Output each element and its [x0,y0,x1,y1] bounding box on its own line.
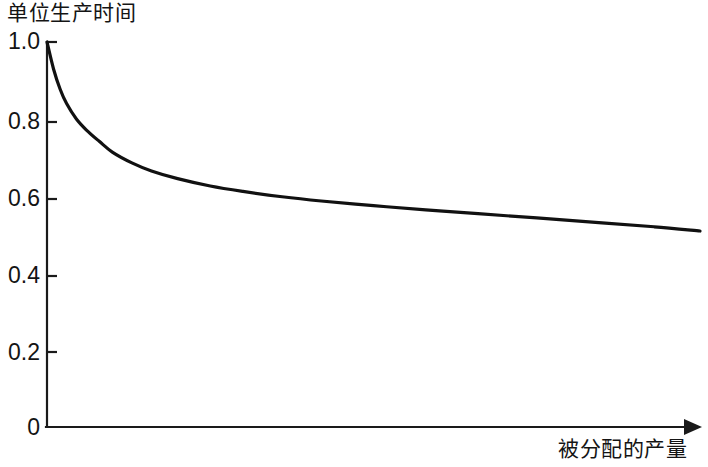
plot-area [0,0,708,467]
data-curve-series-0 [47,42,700,231]
chart-container: 单位生产时间 被分配的产量 1.0 0.8 0.6 0.4 0.2 0 [0,0,708,467]
x-axis-arrow-icon [684,419,702,435]
y-axis-tick-marks [47,42,57,352]
